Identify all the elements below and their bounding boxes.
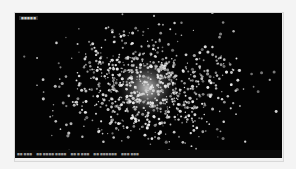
status-item: ■■ ■■■■■■ (93, 152, 117, 156)
status-bar: ■■ ■■■ ■■ ■■■■ ■■■■ ■■ ■ ■■■ ■■ ■■■■■■ ■… (15, 150, 282, 158)
status-item: ■■ ■ ■■■ (70, 152, 89, 156)
star-cluster-image[interactable] (15, 13, 282, 150)
status-item: ■■ ■■■■ ■■■■ (36, 152, 66, 156)
sky-viewport[interactable]: ■■■■■ (15, 13, 282, 150)
status-item: ■■ ■■■ (17, 152, 32, 156)
status-item: ■■■ ■■■ (121, 152, 139, 156)
viewer-title-label: ■■■■■ (19, 16, 38, 20)
